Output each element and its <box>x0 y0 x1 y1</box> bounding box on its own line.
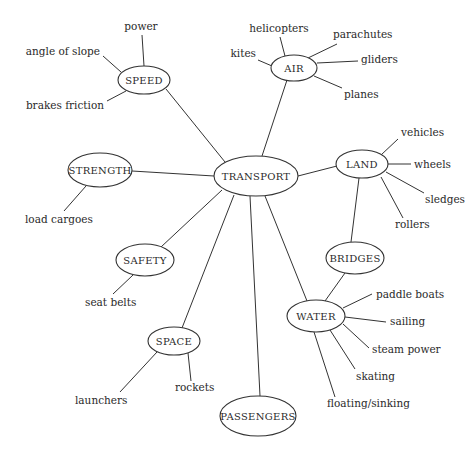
leaf-planes: planes <box>344 88 379 100</box>
edge-transport-air <box>262 80 287 156</box>
leaf-rockets: rockets <box>175 381 214 393</box>
edge-space-rockets <box>188 353 191 381</box>
node-label: PASSENGERS <box>220 411 295 422</box>
edge-water-sailing <box>345 317 386 322</box>
edge-speed-angle <box>103 56 121 72</box>
edge-transport-land <box>298 166 337 176</box>
edge-space-launchers <box>120 352 157 392</box>
node-label: SPACE <box>156 336 192 347</box>
edge-water-paddle <box>343 294 372 308</box>
node-speed: SPEED <box>118 66 170 94</box>
edge-land-vehicles <box>381 139 398 155</box>
transport-mind-map: TRANSPORT SPEED AIR STRENGTH LAND SAFETY… <box>0 0 476 457</box>
leaf-angle-of-slope: angle of slope <box>26 45 100 57</box>
leaf-floating-sinking: floating/sinking <box>327 397 410 409</box>
node-land: LAND <box>336 150 388 178</box>
edge-transport-water <box>265 196 307 301</box>
leaf-wheels: wheels <box>414 158 451 170</box>
edge-speed-brakes <box>107 91 126 101</box>
node-label: AIR <box>283 63 304 74</box>
leaf-rollers: rollers <box>395 218 430 230</box>
edge-bridges-water <box>325 273 345 301</box>
edge-transport-safety <box>161 190 222 247</box>
edge-safety-seatbelts <box>113 275 133 294</box>
node-passengers: PASSENGERS <box>220 396 296 436</box>
edge-air-planes <box>314 76 342 88</box>
leaf-gliders: gliders <box>361 53 398 65</box>
edge-transport-passengers <box>250 196 260 396</box>
edge-air-helicopters <box>280 37 285 56</box>
edge-transport-space <box>182 195 234 328</box>
node-air: AIR <box>271 55 317 81</box>
leaf-sledges: sledges <box>425 193 465 205</box>
edge-strength-load <box>64 186 86 211</box>
node-label: TRANSPORT <box>222 171 291 182</box>
node-water: WATER <box>287 300 345 332</box>
edge-water-skating <box>330 330 355 369</box>
node-label: SAFETY <box>123 255 166 266</box>
leaf-helicopters: helicopters <box>249 22 308 34</box>
leaf-labels: power angle of slope brakes friction hel… <box>25 20 465 409</box>
edge-water-floating <box>314 332 335 397</box>
node-label: SPEED <box>125 75 163 86</box>
leaf-brakes-friction: brakes friction <box>26 99 104 111</box>
edge-water-steam <box>343 324 369 348</box>
leaf-seat-belts: seat belts <box>85 296 136 308</box>
leaf-paddle-boats: paddle boats <box>376 288 444 300</box>
edge-air-parachutes <box>308 44 337 58</box>
node-label: BRIDGES <box>329 253 380 264</box>
edge-speed-power <box>142 35 144 66</box>
edge-transport-strength <box>132 171 214 176</box>
edge-land-rollers <box>381 177 403 218</box>
edge-transport-speed <box>166 89 225 162</box>
node-safety: SAFETY <box>116 244 174 276</box>
edge-air-kites <box>258 60 272 66</box>
leaf-skating: skating <box>356 370 395 382</box>
leaf-launchers: launchers <box>75 394 127 406</box>
leaf-steam-power: steam power <box>372 343 442 355</box>
edge-land-sledges <box>386 172 424 193</box>
node-strength: STRENGTH <box>68 153 132 187</box>
leaf-load-cargoes: load cargoes <box>25 213 93 225</box>
leaf-sailing: sailing <box>390 315 425 327</box>
leaf-vehicles: vehicles <box>400 126 444 138</box>
node-space: SPACE <box>148 327 200 355</box>
node-bridges: BRIDGES <box>326 242 384 274</box>
edge-air-gliders <box>317 61 358 63</box>
edge-land-bridges <box>351 178 359 242</box>
leaf-power: power <box>124 20 158 32</box>
leaf-kites: kites <box>230 47 256 59</box>
node-label: LAND <box>346 159 378 170</box>
node-transport: TRANSPORT <box>214 156 298 196</box>
leaf-parachutes: parachutes <box>333 28 393 40</box>
node-label: WATER <box>296 311 336 322</box>
node-label: STRENGTH <box>69 165 132 176</box>
